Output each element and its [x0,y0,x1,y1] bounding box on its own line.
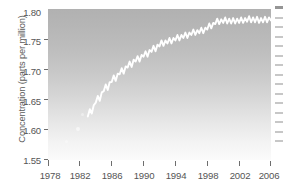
adjacent-text-line [275,26,283,28]
concentration-line-series [48,9,271,160]
y-tick-label-1-65: 1.65 [13,96,41,107]
x-tick-mark-1994 [175,161,176,166]
adjacent-text-line [275,131,283,133]
adjacent-text-line [275,83,283,85]
y-axis-tick-labels: 1.80 1.75 1.70 1.65 1.60 1.55 [11,0,41,193]
adjacent-text-line [275,45,283,47]
x-tick-mark-1986 [111,161,112,166]
y-tick-label-1-55: 1.55 [13,155,41,166]
y-tick-label-1-60: 1.60 [13,125,41,136]
adjacent-text-line [275,112,283,114]
x-tick-mark-2002 [239,161,240,166]
adjacent-text-line [275,6,283,9]
y-tick-label-1-80: 1.80 [13,7,41,18]
adjacent-text-line [275,121,283,123]
adjacent-text-line [275,74,283,76]
adjacent-text-line [275,140,283,142]
adjacent-column-text-sliver [275,6,283,156]
plot-area [48,9,271,160]
x-tick-label-2006: 2006 [249,170,283,181]
x-tick-mark-2006 [270,161,271,166]
x-tick-mark-1998 [207,161,208,166]
methane-concentration-figure: Concentration (parts per million) 1.80 1… [0,0,283,193]
x-tick-mark-1978 [48,161,49,166]
x-tick-mark-1990 [143,161,144,166]
adjacent-text-line [275,93,283,95]
adjacent-text-line [275,36,283,38]
adjacent-text-line [275,64,283,66]
adjacent-text-line [275,55,283,57]
adjacent-text-line [275,102,283,104]
y-tick-label-1-70: 1.70 [13,66,41,77]
adjacent-text-line [275,17,283,19]
x-tick-mark-1982 [79,161,80,166]
y-tick-label-1-75: 1.75 [13,36,41,47]
